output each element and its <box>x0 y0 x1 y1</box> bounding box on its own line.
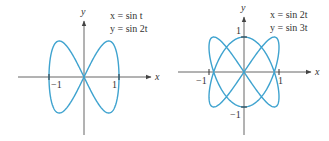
parametric-curves-figure: −1 1 x y x = sin t y = sin 2t −1 1 1 −1 … <box>0 0 329 141</box>
left-equation-y: y = sin 2t <box>110 23 148 34</box>
right-chart: −1 1 1 −1 x y x = sin 2t y = sin 3t <box>178 2 320 135</box>
left-tick-label-pos1: 1 <box>112 79 117 90</box>
left-tick-label-neg1: −1 <box>51 79 62 90</box>
right-equation-y: y = sin 3t <box>270 22 308 33</box>
right-equation-x: x = sin 2t <box>270 9 308 20</box>
right-tick-label-x-pos1: 1 <box>278 75 283 86</box>
left-y-axis-label: y <box>80 6 86 17</box>
left-chart: −1 1 x y x = sin t y = sin 2t <box>18 6 160 135</box>
right-tick-label-x-neg1: −1 <box>196 75 207 86</box>
right-tick-label-y-neg1: −1 <box>230 109 241 120</box>
left-x-axis-label: x <box>154 71 160 82</box>
right-y-axis-label: y <box>240 2 246 13</box>
right-tick-label-y-pos1: 1 <box>236 25 241 36</box>
right-x-axis-label: x <box>314 66 320 77</box>
left-equation-x: x = sin t <box>110 10 143 21</box>
